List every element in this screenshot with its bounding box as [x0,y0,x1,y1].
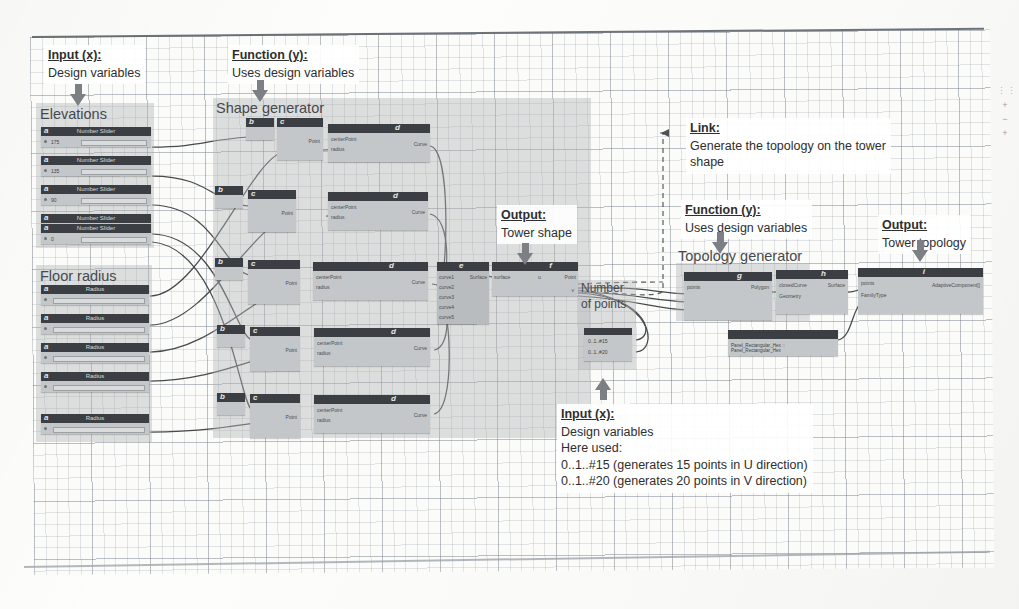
callout-output-middle: Output: Tower shape [497,205,577,244]
callout-line: Uses design variables [232,65,354,82]
callout-heading: Link: [690,120,886,137]
callout-heading: Function (y): [232,47,354,64]
callout-heading: Function (y): [685,202,807,219]
zoom-fit-icon[interactable]: + [997,126,1013,140]
callout-heading: Output: [501,207,572,224]
callout-line: Tower shape [501,225,572,242]
arrow-down-output-middle [517,243,534,265]
callout-line: shape [690,154,886,171]
callout-line: Generate the topology on the tower [690,138,886,155]
arrow-down-output-right [912,240,929,262]
arrow-shaft [600,389,607,400]
pan-grip-icon[interactable]: ⋮⋮ [997,84,1013,98]
callout-line: 0..1..#15 (generates 15 points in U dire… [561,457,808,474]
callout-heading: Input (x): [561,406,808,423]
zoom-in-icon[interactable]: + [997,98,1013,112]
callout-line: Design variables [48,65,140,82]
annotation-layer: Input (x): Design variables Function (y)… [0,0,1019,609]
arrow-down-input-left [70,84,87,106]
arrow-down-function-left [252,80,269,102]
callout-link-right: Link: Generate the topology on the tower… [686,118,891,174]
callout-input-left: Input (x): Design variables [44,45,145,84]
zoom-controls[interactable]: ⋮⋮ + − + [997,84,1013,140]
callout-line: Design variables [561,424,808,441]
callout-function-left: Function (y): Uses design variables [228,45,359,84]
callout-function-right: Function (y): Uses design variables [681,200,812,239]
callout-input-bottom: Input (x): Design variables Here used: 0… [557,404,813,493]
arrow-up-input-bottom [595,378,612,400]
callout-line: 0..1..#20 (generates 20 points in V dire… [561,473,808,490]
callout-heading: Input (x): [48,47,140,64]
callout-heading: Output: [882,217,966,234]
zoom-out-icon[interactable]: − [997,112,1013,126]
callout-line: Here used: [561,440,808,457]
arrow-down-function-right [712,232,729,254]
callout-line: Uses design variables [685,220,807,237]
